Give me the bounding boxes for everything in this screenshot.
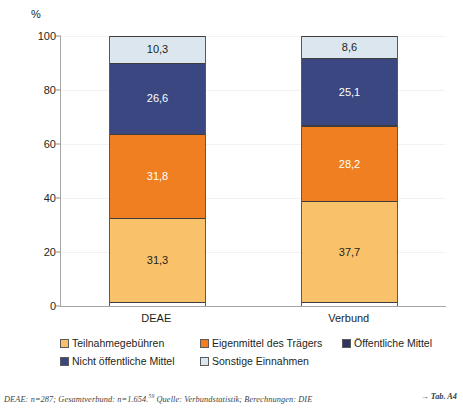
bar-segment: 28,2 [302,126,397,202]
bar-segment: 25,1 [302,58,397,126]
chart-footnote: DEAE: n=287; Gesamtverbund: n=1.654.59 Q… [4,393,312,404]
legend-item-label: Nicht öffentliche Mittel [72,355,175,367]
legend-color-swatch-icon [200,357,209,366]
bar-segment-value-label: 8,6 [342,42,357,53]
x-axis-category-label: DEAE [86,312,226,324]
legend-item[interactable]: Eigenmittel des Trägers [200,337,322,349]
bar-segment: 37,7 [302,201,397,303]
y-axis: 020406080100 [0,0,56,306]
plot-area: 10,326,631,831,38,625,128,237,7 [60,36,445,306]
chart-legend: TeilnahmegebührenEigenmittel des Trägers… [60,337,460,373]
legend-color-swatch-icon [200,339,209,348]
legend-item[interactable]: Sonstige Einnahmen [200,355,309,367]
legend-row: Nicht öffentliche MittelSonstige Einnahm… [60,355,460,373]
chart-table-reference: → Tab. A4 [420,392,457,401]
bar-segment: 8,6 [302,36,397,59]
stacked-bar-chart: % 10,326,631,831,38,625,128,237,7 020406… [0,0,463,412]
footnote-text-before: DEAE: n=287; Gesamtverbund: n=1.654. [4,395,149,404]
legend-row: TeilnahmegebührenEigenmittel des Trägers… [60,337,460,355]
y-axis-line [60,36,61,307]
legend-item[interactable]: Öffentliche Mittel [342,337,432,349]
bar-segment: 31,8 [110,134,205,220]
y-axis-tick-label: 100 [30,30,56,42]
legend-color-swatch-icon [60,339,69,348]
legend-color-swatch-icon [342,339,351,348]
bar-segment-value-label: 31,3 [147,255,168,266]
bar-segment-value-label: 31,8 [147,171,168,182]
bar-deae: 10,326,631,831,3 [109,36,206,306]
table-reference-label: Tab. A4 [431,392,457,401]
legend-item-label: Öffentliche Mittel [354,337,432,349]
y-axis-tick-label: 60 [30,138,56,150]
legend-item[interactable]: Nicht öffentliche Mittel [60,355,175,367]
legend-color-swatch-icon [60,357,69,366]
bar-segment-value-label: 10,3 [147,44,168,55]
bar-verbund: 8,625,128,237,7 [301,36,398,306]
x-axis-category-label: Verbund [279,312,419,324]
x-axis-line [60,306,446,307]
arrow-right-icon: → [420,392,428,401]
legend-item[interactable]: Teilnahmegebühren [60,337,164,349]
bar-segment-value-label: 26,6 [147,93,168,104]
y-axis-tick-label: 0 [30,300,56,312]
legend-item-label: Sonstige Einnahmen [212,355,309,367]
bar-segment: 26,6 [110,63,205,135]
bar-segment-value-label: 37,7 [339,247,360,258]
bar-segment-value-label: 28,2 [339,159,360,170]
bar-segment-value-label: 25,1 [339,87,360,98]
legend-item-label: Teilnahmegebühren [72,337,164,349]
y-axis-tick-label: 40 [30,192,56,204]
footnote-text-after: Quelle: Verbundstatistik; Berechnungen: … [154,395,312,404]
y-axis-tick-label: 80 [30,84,56,96]
legend-item-label: Eigenmittel des Trägers [212,337,322,349]
bar-segment: 10,3 [110,36,205,64]
y-axis-tick-label: 20 [30,246,56,258]
bar-segment: 31,3 [110,218,205,303]
